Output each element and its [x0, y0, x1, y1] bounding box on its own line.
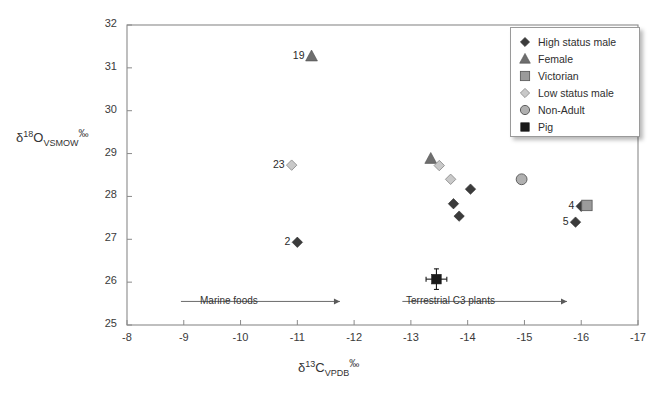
x-tick-label: -17 [618, 331, 658, 343]
y-axis-element: O [33, 130, 43, 145]
data-point-diamond-filled-dark [465, 184, 475, 194]
x-tick-label: -8 [107, 331, 147, 343]
y-axis-ticks [127, 25, 132, 325]
data-point-label: 23 [268, 158, 285, 170]
y-tick-label: 31 [83, 60, 117, 72]
annotation-marine-foods: Marine foods [200, 295, 258, 306]
y-tick-label: 27 [83, 231, 117, 243]
y-axis-unit: ‰ [78, 128, 88, 139]
y-axis-isotope: 18 [23, 129, 33, 139]
x-axis-standard: VPDB [325, 368, 350, 378]
y-tick-label: 25 [83, 317, 117, 329]
data-point-triangle-filled-grey [425, 152, 437, 163]
x-axis-element: C [315, 360, 324, 375]
legend-item-high-status-male[interactable]: High status male [517, 33, 639, 50]
annotation-arrowhead [561, 298, 567, 304]
x-axis-isotope: 13 [305, 359, 315, 369]
y-tick-label: 32 [83, 17, 117, 29]
x-tick-label: -15 [504, 331, 544, 343]
legend-item-non-adult[interactable]: Non-Adult [517, 101, 639, 118]
legend-marker-icon [517, 35, 533, 49]
legend-marker-icon [517, 52, 533, 66]
y-tick-label: 26 [83, 274, 117, 286]
legend-item-female[interactable]: Female [517, 50, 639, 67]
legend-item-victorian[interactable]: Victorian [517, 67, 639, 84]
x-tick-label: -13 [391, 331, 431, 343]
legend-marker-glyph [520, 105, 529, 114]
legend-marker-glyph [521, 122, 529, 130]
data-point-label: 4 [557, 199, 574, 211]
legend-marker-icon [517, 69, 533, 83]
y-tick-label: 30 [83, 103, 117, 115]
annotation-terrestrial-c3: Terrestrial C3 plants [406, 295, 495, 306]
y-axis-standard: VSMOW [43, 138, 78, 148]
data-point-square-grey [582, 200, 592, 210]
legend-item-label: High status male [538, 36, 616, 48]
x-tick-label: -14 [448, 331, 488, 343]
legend-item-label: Victorian [538, 70, 579, 82]
y-tick-label: 28 [83, 188, 117, 200]
legend-marker-glyph [520, 37, 529, 46]
chart-legend: High status maleFemaleVictorianLow statu… [510, 27, 640, 137]
y-axis-label: δ18OVSMOW‰ [16, 128, 88, 148]
x-tick-label: -12 [334, 331, 374, 343]
data-point-diamond-light [286, 160, 296, 170]
legend-item-label: Low status male [538, 87, 614, 99]
x-tick-label: -10 [221, 331, 261, 343]
data-point-triangle-filled-grey [306, 50, 318, 61]
x-axis-unit: ‰ [349, 358, 359, 369]
data-point-square-black-errorbar [432, 274, 442, 284]
data-point-label: 5 [552, 215, 569, 227]
legend-marker-icon [517, 86, 533, 100]
y-tick-label: 29 [83, 146, 117, 158]
annotation-arrowhead [334, 298, 340, 304]
x-axis-ticks [127, 320, 638, 325]
data-point-diamond-filled-dark [448, 199, 458, 209]
x-axis-label: δ13CVPDB‰ [298, 358, 359, 378]
legend-item-label: Pig [538, 121, 553, 133]
data-point-label: 19 [288, 49, 305, 61]
legend-item-low-status-male[interactable]: Low status male [517, 84, 639, 101]
data-point-diamond-light [445, 174, 455, 184]
data-point-diamond-filled-dark [570, 217, 580, 227]
data-point-diamond-filled-dark [292, 237, 302, 247]
x-tick-label: -16 [561, 331, 601, 343]
legend-item-pig[interactable]: Pig [517, 118, 639, 135]
legend-marker-glyph [520, 71, 529, 80]
x-tick-label: -11 [277, 331, 317, 343]
data-point-circle-grey [516, 174, 527, 185]
legend-marker-glyph [520, 53, 531, 63]
x-tick-label: -9 [164, 331, 204, 343]
data-point-label: 2 [273, 235, 290, 247]
legend-marker-icon [517, 120, 533, 134]
legend-item-label: Non-Adult [538, 104, 585, 116]
data-point-diamond-filled-dark [454, 211, 464, 221]
legend-marker-icon [517, 103, 533, 117]
legend-item-label: Female [538, 53, 573, 65]
legend-marker-glyph [520, 88, 529, 97]
